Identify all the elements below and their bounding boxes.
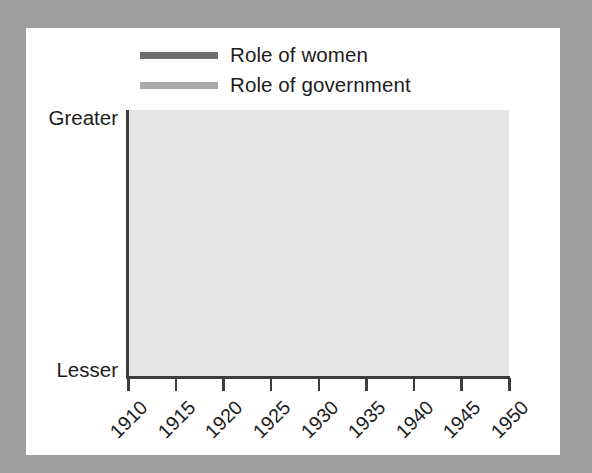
chart-legend: Role of women Role of government: [140, 40, 500, 100]
plot-area: [128, 110, 509, 376]
x-axis-tick: [270, 378, 273, 391]
figure-frame: Role of women Role of government Greater…: [0, 0, 592, 473]
x-axis-tick: [508, 378, 511, 391]
legend-entry-role-of-government[interactable]: Role of government: [140, 70, 500, 100]
x-axis-tick: [318, 378, 321, 391]
y-axis-label-lesser: Lesser: [0, 358, 118, 382]
x-axis-tick: [175, 378, 178, 391]
x-axis-tick: [127, 378, 130, 391]
y-axis-line: [126, 110, 129, 378]
legend-swatch-role-of-government: [140, 82, 218, 89]
legend-label-role-of-government: Role of government: [230, 75, 411, 96]
legend-label-role-of-women: Role of women: [230, 45, 368, 66]
x-axis-tick: [365, 378, 368, 391]
y-axis-label-greater: Greater: [0, 106, 118, 130]
x-axis-tick: [413, 378, 416, 391]
x-axis-tick: [222, 378, 225, 391]
x-axis-tick: [460, 378, 463, 391]
legend-entry-role-of-women[interactable]: Role of women: [140, 40, 500, 70]
legend-swatch-role-of-women: [140, 52, 218, 59]
chart-card: Role of women Role of government Greater…: [26, 28, 560, 455]
